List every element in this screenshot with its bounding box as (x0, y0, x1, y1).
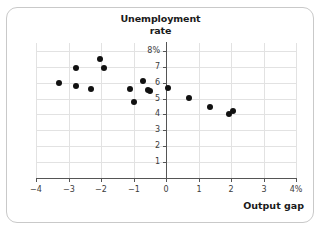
y-axis-tick-label: 1 (130, 157, 160, 166)
x-axis-tick (199, 178, 200, 182)
x-axis-tick (264, 178, 265, 182)
y-axis-tick-label: 2 (130, 141, 160, 150)
chart-title-line-1: Unemployment (0, 13, 321, 25)
data-point (230, 108, 236, 114)
x-axis-tick-label: −2 (86, 185, 116, 194)
x-axis-tick-label: 1 (184, 185, 214, 194)
data-point (186, 95, 192, 101)
x-axis-tick-label: 4% (281, 185, 311, 194)
data-point (127, 86, 133, 92)
gridline-vertical (101, 43, 102, 178)
y-axis-tick (163, 67, 167, 68)
data-point (88, 86, 94, 92)
y-axis-tick (163, 114, 167, 115)
x-axis-label: Output gap (243, 200, 304, 211)
x-axis-tick-label: −3 (54, 185, 84, 194)
y-axis-tick-label: 7 (130, 62, 160, 71)
x-axis-tick (231, 178, 232, 182)
y-axis-tick (163, 83, 167, 84)
y-axis-tick (163, 130, 167, 131)
gridline-vertical (199, 43, 200, 178)
chart-title: Unemployment rate (0, 13, 321, 36)
y-axis-tick (163, 146, 167, 147)
data-point (73, 83, 79, 89)
x-axis-tick-label: 2 (216, 185, 246, 194)
scatter-chart-figure: Unemployment rate −4−3−2−101234%12345678… (0, 0, 321, 232)
y-axis-line (166, 42, 167, 179)
x-axis-tick (166, 178, 167, 182)
gridline-vertical (264, 43, 265, 178)
y-axis-tick-label: 8% (130, 46, 160, 55)
y-axis-tick-label: 4 (130, 109, 160, 118)
x-axis-tick-label: −4 (21, 185, 51, 194)
x-axis-tick-label: −1 (119, 185, 149, 194)
x-axis-tick (101, 178, 102, 182)
gridline-vertical (36, 43, 37, 178)
gridline-vertical (69, 43, 70, 178)
data-point (56, 80, 62, 86)
data-point (73, 65, 79, 71)
x-axis-tick (296, 178, 297, 182)
gridline-vertical (296, 43, 297, 178)
x-axis-tick (69, 178, 70, 182)
x-axis-tick-label: 0 (151, 185, 181, 194)
y-axis-tick-label: 3 (130, 125, 160, 134)
data-point (207, 104, 213, 110)
x-axis-tick-label: 3 (249, 185, 279, 194)
x-axis-tick (36, 178, 37, 182)
y-axis-tick (163, 51, 167, 52)
y-axis-tick (163, 99, 167, 100)
plot-area: −4−3−2−101234%12345678% (36, 43, 296, 178)
data-point (101, 65, 107, 71)
x-axis-tick (134, 178, 135, 182)
y-axis-tick (163, 162, 167, 163)
chart-title-line-2: rate (0, 25, 321, 37)
data-point (131, 99, 137, 105)
